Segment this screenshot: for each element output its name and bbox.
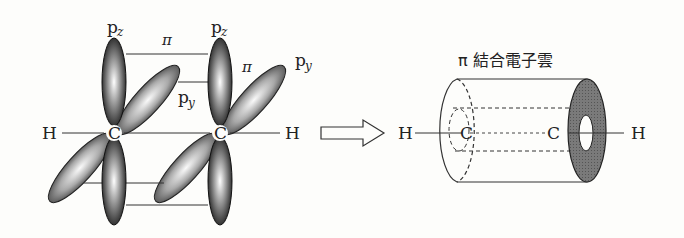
atom-c-left: C xyxy=(108,123,121,143)
pz-lobe-left-lower xyxy=(102,137,126,225)
label-pi-right: π xyxy=(241,58,253,76)
pi-bond-diagram: H C C H p z p z p y p y π π π 結合電子雲 xyxy=(0,0,684,238)
atom-h-right: H xyxy=(285,123,300,143)
cyl-atom-h-left: H xyxy=(398,123,413,143)
label-py-middle: p y xyxy=(178,87,195,110)
cyl-atom-h-right: H xyxy=(631,123,646,143)
label-py-right: p y xyxy=(295,50,312,73)
svg-text:y: y xyxy=(187,96,195,110)
atom-h-left: H xyxy=(42,123,57,143)
pz-lobe-right-upper xyxy=(208,38,232,126)
cyl-atom-c-left: C xyxy=(460,123,473,143)
atom-c-right: C xyxy=(214,123,227,143)
svg-text:y: y xyxy=(304,59,312,73)
hollow-right-arrow-icon xyxy=(321,120,384,146)
pi-electron-cloud-cylinder: π 結合電子雲 H C C H xyxy=(398,51,646,182)
label-pi-top: π xyxy=(161,31,173,49)
cyl-atom-c-right: C xyxy=(547,123,560,143)
svg-text:z: z xyxy=(116,25,124,39)
label-pz-left: p z xyxy=(107,17,124,39)
pi-electron-cloud-title: π 結合電子雲 xyxy=(458,51,553,70)
pz-lobe-right-lower xyxy=(208,137,232,225)
svg-text:z: z xyxy=(220,25,228,39)
orbital-overlap-diagram: H C C H p z p z p y p y π π xyxy=(40,17,312,225)
label-pz-right: p z xyxy=(211,17,228,39)
pz-lobe-left-upper xyxy=(102,38,126,126)
